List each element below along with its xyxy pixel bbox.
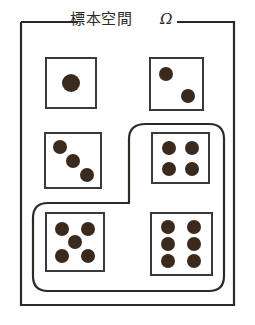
die-6-pip [161,220,175,234]
sample-space-diagram: 標本空間 Ω [0,0,255,325]
die-6-box [151,213,212,275]
omega-symbol: Ω [159,10,172,28]
diagram-canvas: 標本空間 Ω [0,0,255,325]
die-4-pip [185,162,199,176]
die-5-pip [81,249,95,263]
die-4-box [152,133,209,183]
die-4-pip [162,162,176,176]
die-3-pip [80,168,94,182]
die-face-6 [151,213,212,275]
die-2-pip [159,67,173,81]
die-5-pip [55,222,69,236]
die-2-pip [181,89,195,103]
die-5-pip [81,222,95,236]
die-face-5 [46,213,104,271]
die-4-pip [185,141,199,155]
die-face-3 [45,133,101,188]
die-3-pip [53,140,67,154]
die-5-pip [55,249,69,263]
die-4-pip [162,141,176,155]
die-face-2 [150,58,203,110]
die-1-pip [62,74,80,92]
die-3-pip [66,154,80,168]
die-face-4 [152,133,209,183]
die-5-pip [68,235,82,249]
die-6-pip [187,220,201,234]
page-title: 標本空間 [70,10,132,28]
die-6-pip [187,237,201,251]
die-face-1 [46,58,96,108]
die-2-box [150,58,203,110]
diagram-background [0,0,255,325]
die-6-pip [187,254,201,268]
die-6-pip [161,254,175,268]
die-6-pip [161,237,175,251]
